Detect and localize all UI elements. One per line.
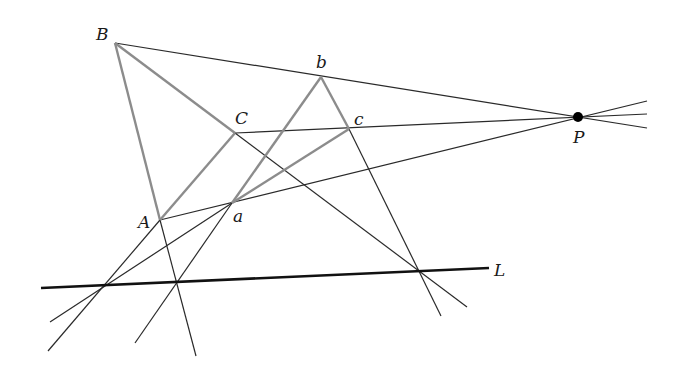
line-AB-extended — [160, 220, 196, 356]
line-Bb-through-P — [115, 43, 647, 128]
label-B: B — [95, 24, 109, 44]
label-a: a — [233, 206, 243, 226]
edge-AB — [115, 43, 160, 220]
line-bc-extended — [349, 129, 441, 316]
label-c: c — [354, 109, 364, 129]
line-BC-extended — [235, 133, 467, 307]
label-A: A — [136, 212, 150, 232]
label-P: P — [572, 127, 585, 147]
label-L: L — [493, 260, 505, 280]
edge-ca — [232, 129, 349, 203]
label-C: C — [235, 108, 248, 128]
label-b: b — [316, 52, 327, 72]
edge-bc — [321, 77, 349, 129]
edge-BC — [115, 43, 235, 133]
edge-CA — [160, 133, 235, 220]
point-P — [573, 112, 583, 122]
line-Cc-through-P — [235, 114, 647, 133]
desargues-diagram: B C A b c a P L — [0, 0, 679, 366]
